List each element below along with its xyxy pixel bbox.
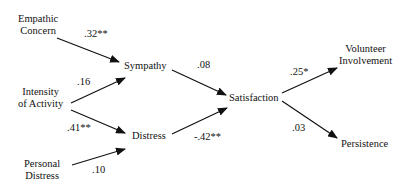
- node-intensity-of-activity: Intensity of Activity: [18, 86, 63, 110]
- node-label-line: Empathic: [18, 13, 58, 25]
- coef-personal-distress: .10: [92, 164, 105, 176]
- coef-distress-satisfaction: -.42**: [194, 131, 221, 143]
- arrow-satisfaction-to-persistence: [282, 101, 337, 138]
- coef-intensity-distress: .41**: [67, 122, 91, 134]
- arrow-empathic-to-sympathy: [57, 38, 119, 62]
- node-persistence: Persistence: [341, 138, 388, 150]
- node-personal-distress: Personal Distress: [24, 158, 60, 182]
- node-label-line: Personal: [24, 158, 60, 170]
- node-sympathy: Sympathy: [124, 60, 167, 72]
- coef-satisfaction-volunteer: .25*: [290, 66, 308, 78]
- coef-sympathy-satisfaction: .08: [197, 59, 210, 71]
- node-empathic-concern: Empathic Concern: [18, 13, 58, 37]
- node-label-line: Concern: [18, 25, 58, 37]
- coef-empathic-sympathy: .32**: [84, 28, 108, 40]
- arrow-personal-to-distress: [72, 149, 125, 165]
- node-distress: Distress: [132, 130, 166, 142]
- arrow-sympathy-to-satisfaction: [172, 70, 226, 95]
- node-volunteer-involvement: Volunteer Involvement: [339, 43, 392, 67]
- node-label-line: Involvement: [339, 55, 392, 67]
- coef-satisfaction-persistence: .03: [292, 122, 305, 134]
- node-satisfaction: Satisfaction: [229, 92, 279, 104]
- coef-intensity-sympathy: .16: [77, 76, 90, 88]
- node-label-line: Distress: [24, 170, 60, 182]
- node-label-line: Volunteer: [339, 43, 392, 55]
- node-label-line: of Activity: [18, 98, 63, 110]
- node-label-line: Intensity: [18, 86, 63, 98]
